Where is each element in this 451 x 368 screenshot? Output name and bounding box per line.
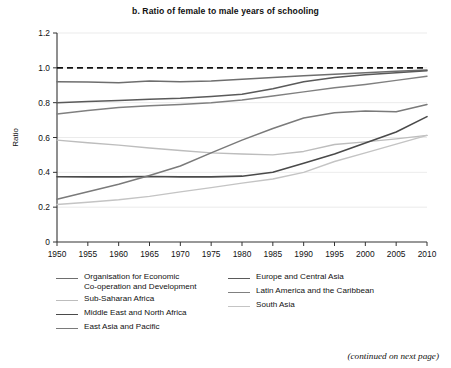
y-tick-label: 0.8: [38, 98, 50, 108]
continued-note: (continued on next page): [347, 351, 439, 361]
legend-label: Sub-Saharan Africa: [84, 294, 154, 304]
legend-label: Organisation for Economic Co-operation a…: [84, 272, 196, 292]
x-tick-label: 1995: [325, 249, 344, 259]
legend-swatch-icon: [56, 273, 78, 284]
line-chart: 00.20.40.60.81.01.2Ratio1950195519601965…: [0, 28, 451, 263]
series-line: [57, 117, 427, 177]
legend-label: Europe and Central Asia: [256, 272, 344, 282]
legend-item[interactable]: Organisation for Economic Co-operation a…: [56, 272, 236, 292]
series-line: [57, 135, 427, 155]
legend-label: Middle East and North Africa: [84, 308, 187, 318]
legend-column-right: Europe and Central AsiaLatin America and…: [228, 272, 443, 314]
x-tick-label: 1960: [109, 249, 128, 259]
legend-label: East Asia and Pacific: [84, 322, 160, 332]
legend-item[interactable]: Latin America and the Caribbean: [228, 286, 443, 298]
legend-swatch-icon: [56, 323, 78, 334]
x-tick-label: 1955: [79, 249, 98, 259]
legend-swatch-icon: [228, 273, 250, 284]
series-line: [57, 135, 427, 204]
figure-panel: b. Ratio of female to male years of scho…: [0, 0, 451, 368]
y-tick-label: 1.2: [38, 28, 50, 38]
y-axis-title: Ratio: [11, 128, 20, 147]
x-tick-label: 1965: [140, 249, 159, 259]
legend-swatch-icon: [56, 309, 78, 320]
x-tick-label: 2000: [356, 249, 375, 259]
series-line: [57, 70, 427, 83]
y-tick-label: 0: [45, 237, 50, 247]
legend-label: South Asia: [256, 300, 295, 310]
chart-legend: Organisation for Economic Co-operation a…: [0, 272, 451, 342]
legend-item[interactable]: Europe and Central Asia: [228, 272, 443, 284]
series-line: [57, 71, 427, 103]
x-tick-label: 1985: [264, 249, 283, 259]
x-tick-label: 1970: [171, 249, 190, 259]
x-tick-label: 1975: [202, 249, 221, 259]
legend-item[interactable]: Middle East and North Africa: [56, 308, 236, 320]
y-tick-label: 0.6: [38, 133, 50, 143]
chart-plot-area: 00.20.40.60.81.01.2Ratio1950195519601965…: [0, 28, 451, 263]
legend-item[interactable]: Sub-Saharan Africa: [56, 294, 236, 306]
chart-title: b. Ratio of female to male years of scho…: [0, 6, 451, 16]
legend-swatch-icon: [56, 295, 78, 306]
x-tick-label: 2005: [387, 249, 406, 259]
legend-swatch-icon: [228, 287, 250, 298]
legend-swatch-icon: [228, 301, 250, 312]
legend-item[interactable]: East Asia and Pacific: [56, 322, 236, 334]
legend-column-left: Organisation for Economic Co-operation a…: [56, 272, 236, 336]
x-tick-label: 1980: [233, 249, 252, 259]
x-tick-label: 1990: [294, 249, 313, 259]
x-tick-label: 1950: [48, 249, 67, 259]
legend-label: Latin America and the Caribbean: [256, 286, 374, 296]
y-tick-label: 1.0: [38, 63, 50, 73]
series-line: [57, 104, 427, 199]
y-tick-label: 0.4: [38, 167, 50, 177]
x-tick-label: 2010: [418, 249, 437, 259]
y-tick-label: 0.2: [38, 202, 50, 212]
legend-item[interactable]: South Asia: [228, 300, 443, 312]
